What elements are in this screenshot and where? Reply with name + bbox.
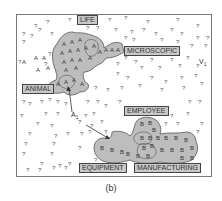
svg-text:?: ? — [40, 161, 44, 167]
svg-text:?: ? — [190, 43, 194, 49]
svg-text:?: ? — [22, 31, 26, 37]
svg-text:?: ? — [44, 111, 48, 117]
svg-text:?: ? — [180, 75, 184, 81]
svg-text:?: ? — [176, 39, 180, 45]
svg-text:A: A — [70, 57, 74, 63]
svg-text:A: A — [92, 43, 96, 49]
label-animal: ANIMAL — [22, 84, 54, 94]
svg-text:?: ? — [130, 29, 134, 35]
svg-text:?: ? — [86, 25, 90, 31]
svg-text:?: ? — [68, 161, 72, 167]
svg-text:?: ? — [94, 85, 98, 91]
svg-text:?: ? — [150, 57, 154, 63]
svg-text:B: B — [184, 137, 188, 143]
svg-text:?: ? — [22, 39, 26, 45]
svg-text:A: A — [104, 47, 108, 53]
svg-text:?: ? — [64, 101, 68, 107]
svg-text:?: ? — [132, 37, 136, 43]
svg-text:?: ? — [182, 85, 186, 91]
label-employee: EMPLOYEE — [124, 106, 169, 116]
svg-text:?: ? — [48, 97, 52, 103]
svg-text:B: B — [164, 135, 168, 141]
svg-text:?: ? — [20, 113, 24, 119]
svg-text:?: ? — [38, 167, 42, 173]
svg-text:?: ? — [196, 23, 200, 29]
svg-text:?: ? — [28, 131, 32, 137]
svg-text:?: ? — [52, 165, 56, 171]
svg-text:A: A — [64, 67, 68, 73]
svg-text:?: ? — [178, 63, 182, 69]
svg-text:?: ? — [106, 87, 110, 93]
svg-text:?: ? — [84, 113, 88, 119]
svg-text:?: ? — [186, 111, 190, 117]
svg-text:?: ? — [58, 163, 62, 169]
label-life: LIFE — [77, 15, 98, 25]
svg-text:?: ? — [170, 113, 174, 119]
annotation-a1: A1 — [71, 111, 78, 120]
svg-text:A: A — [74, 65, 78, 71]
svg-text:?: ? — [124, 35, 128, 41]
svg-text:B: B — [110, 147, 114, 153]
svg-text:?: ? — [206, 35, 210, 41]
svg-text:A: A — [84, 45, 88, 51]
svg-text:?: ? — [138, 83, 142, 89]
svg-text:?: ? — [68, 17, 72, 23]
svg-text:?: ? — [50, 151, 54, 157]
svg-text:A: A — [80, 81, 84, 87]
svg-text:?: ? — [88, 129, 92, 135]
svg-text:A: A — [34, 55, 38, 61]
svg-text:?: ? — [118, 99, 122, 105]
svg-text:?: ? — [196, 129, 200, 135]
svg-text:A: A — [116, 47, 120, 53]
svg-text:B: B — [174, 135, 178, 141]
svg-text:B: B — [148, 120, 152, 126]
svg-text:?: ? — [104, 103, 108, 109]
svg-text:A: A — [62, 59, 66, 65]
svg-text:?: ? — [26, 167, 30, 173]
label-manufacturing: MANUFACTURING — [134, 163, 201, 173]
svg-text:?: ? — [66, 131, 70, 137]
svg-text:?: ? — [36, 121, 40, 127]
svg-text:B: B — [140, 121, 144, 127]
svg-text:?: ? — [50, 31, 54, 37]
svg-text:B: B — [150, 143, 154, 149]
svg-text:A: A — [56, 81, 60, 87]
svg-text:B: B — [156, 135, 160, 141]
svg-text:?: ? — [38, 27, 42, 33]
annotation-v1: V1 — [199, 58, 206, 67]
svg-text:?: ? — [188, 99, 192, 105]
annotation-a1-sub: 1 — [76, 114, 79, 120]
svg-text:?: ? — [48, 51, 52, 57]
svg-text:?: ? — [158, 65, 162, 71]
svg-text:A: A — [98, 49, 102, 55]
svg-text:B: B — [190, 155, 194, 161]
svg-text:A: A — [68, 48, 72, 54]
svg-text:?: ? — [96, 25, 100, 31]
svg-text:?: ? — [164, 121, 168, 127]
svg-text:B: B — [180, 155, 184, 161]
svg-text:?: ? — [200, 81, 204, 87]
svg-text:?: ? — [176, 121, 180, 127]
svg-text:B: B — [100, 145, 104, 151]
svg-text:?: ? — [104, 129, 108, 135]
svg-text:B: B — [148, 135, 152, 141]
svg-text:?: ? — [186, 55, 190, 61]
svg-text:?: ? — [24, 141, 28, 147]
svg-text:A: A — [78, 37, 82, 43]
svg-text:?: ? — [50, 123, 54, 129]
svg-text:?: ? — [124, 15, 128, 21]
svg-text:B: B — [152, 127, 156, 133]
svg-text:?: ? — [126, 75, 130, 81]
svg-text:?: ? — [80, 131, 84, 137]
svg-text:B: B — [140, 135, 144, 141]
svg-text:?: ? — [56, 111, 60, 117]
svg-text:?: ? — [194, 73, 198, 79]
svg-text:?: ? — [92, 111, 96, 117]
svg-text:?: ? — [170, 57, 174, 63]
svg-text:?: ? — [86, 99, 90, 105]
svg-text:?: ? — [164, 79, 168, 85]
svg-text:?: ? — [120, 85, 124, 91]
svg-text:?: ? — [46, 19, 50, 25]
svg-text:A: A — [88, 55, 92, 61]
svg-text:?: ? — [30, 33, 34, 39]
